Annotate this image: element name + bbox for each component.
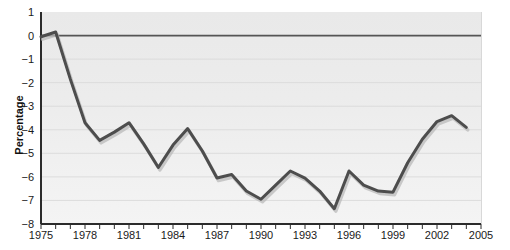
x-tick-label: 1981	[117, 230, 141, 241]
y-tick-label: −1	[8, 54, 34, 65]
y-tick-label: 0	[8, 30, 34, 41]
x-tick-label: 1975	[29, 230, 53, 241]
y-tick-label: 1	[8, 7, 34, 18]
x-tick-label: 2002	[425, 230, 449, 241]
y-tick-label: −2	[8, 77, 34, 88]
chart-svg	[0, 0, 510, 250]
chart-container: Percentage 10−1−2−3−4−5−6−7−8 1975197819…	[0, 0, 510, 250]
x-tick-label: 1993	[293, 230, 317, 241]
gridlines	[41, 36, 481, 201]
y-tick-label: −5	[8, 148, 34, 159]
y-tick-label: −7	[8, 195, 34, 206]
x-tick-label: 1999	[381, 230, 405, 241]
x-tick-label: 1990	[249, 230, 273, 241]
x-tick-label: 1996	[337, 230, 361, 241]
x-tick-label: 1984	[161, 230, 185, 241]
y-tick-label: −8	[8, 219, 34, 230]
x-tick-label: 2005	[469, 230, 493, 241]
y-tick-label: −3	[8, 101, 34, 112]
y-tick-label: −6	[8, 171, 34, 182]
data-line-shadow	[43, 35, 468, 212]
x-tick-label: 1978	[73, 230, 97, 241]
y-tick-label: −4	[8, 124, 34, 135]
x-tick-label: 1987	[205, 230, 229, 241]
